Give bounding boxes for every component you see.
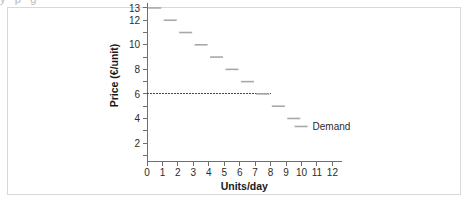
y-axis-tick-label: 13 bbox=[129, 3, 141, 14]
y-axis-tick-label: 10 bbox=[129, 39, 141, 50]
demand-curve-chart: 24681012130123456789101112DemandUnits/da… bbox=[0, 0, 469, 204]
x-axis-title: Units/day bbox=[221, 180, 268, 192]
x-axis-tick-label: 9 bbox=[283, 167, 289, 178]
x-axis-tick-label: 7 bbox=[252, 167, 258, 178]
x-axis-tick-label: 12 bbox=[327, 167, 339, 178]
y-axis-tick-label: 12 bbox=[129, 15, 141, 26]
x-axis-tick-label: 6 bbox=[237, 167, 243, 178]
y-axis-tick-label: 6 bbox=[134, 89, 140, 100]
x-axis-tick-label: 11 bbox=[312, 167, 323, 178]
x-axis-tick-label: 10 bbox=[296, 167, 308, 178]
figure-root: y p g 24681012130123456789101112DemandUn… bbox=[0, 0, 469, 204]
y-axis-tick-label: 4 bbox=[134, 113, 140, 124]
legend-label-demand: Demand bbox=[313, 121, 351, 132]
x-axis-tick-label: 3 bbox=[191, 167, 197, 178]
x-axis-tick-label: 8 bbox=[268, 167, 274, 178]
y-axis-tick-label: 8 bbox=[134, 64, 140, 75]
y-axis-title: Price (€/unit) bbox=[108, 44, 120, 108]
x-axis-tick-label: 4 bbox=[206, 167, 212, 178]
x-axis-tick-label: 5 bbox=[221, 167, 227, 178]
y-axis-tick-label: 2 bbox=[134, 138, 140, 149]
x-axis-tick-label: 2 bbox=[175, 167, 181, 178]
x-axis-tick-label: 1 bbox=[160, 167, 166, 178]
x-axis-tick-label: 0 bbox=[144, 167, 150, 178]
